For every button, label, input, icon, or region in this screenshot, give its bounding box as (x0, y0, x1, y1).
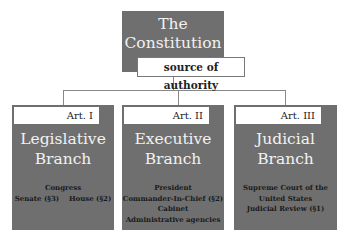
branch-details: Congress Senate (§3) House (§2) (12, 183, 114, 204)
detail-line: United States (234, 194, 337, 205)
branch-title-line1: Executive (122, 129, 224, 149)
branch-title-line1: Judicial (234, 129, 337, 149)
legislative-branch-box: Art. I Legislative Branch Congress Senat… (12, 105, 114, 230)
constitution-title-line1: The (122, 15, 224, 34)
detail-line: Cabinet (122, 204, 224, 215)
constitution-title-line2: Constitution (122, 34, 224, 53)
branch-title: Judicial Branch (234, 129, 337, 169)
detail-line: Senate (§3) House (§2) (12, 194, 114, 205)
source-of-authority-label: source of authority (137, 57, 245, 77)
judicial-branch-box: Art. III Judicial Branch Supreme Court o… (234, 105, 337, 230)
branch-details: President Commander-In-Chief (§2) Cabine… (122, 183, 224, 225)
detail-line: President (122, 183, 224, 194)
branch-title-line2: Branch (12, 149, 114, 169)
detail-line: Congress (12, 183, 114, 194)
branch-title: Executive Branch (122, 129, 224, 169)
detail-line: Supreme Court of the (234, 183, 337, 194)
article-label: Art. III (236, 107, 321, 124)
executive-branch-box: Art. II Executive Branch President Comma… (122, 105, 224, 230)
branch-title-line2: Branch (234, 149, 337, 169)
branch-title-line1: Legislative (12, 129, 114, 149)
article-label: Art. I (14, 107, 99, 124)
branch-title: Legislative Branch (12, 129, 114, 169)
detail-line: Judicial Review (§1) (234, 204, 337, 215)
detail-line: Commander-In-Chief (§2) (122, 194, 224, 205)
connector-legislative (63, 90, 64, 105)
connector-judicial (285, 90, 286, 105)
branch-title-line2: Branch (122, 149, 224, 169)
detail-line: Administrative agencies (122, 215, 224, 226)
branch-details: Supreme Court of the United States Judic… (234, 183, 337, 215)
article-label: Art. II (124, 107, 209, 124)
